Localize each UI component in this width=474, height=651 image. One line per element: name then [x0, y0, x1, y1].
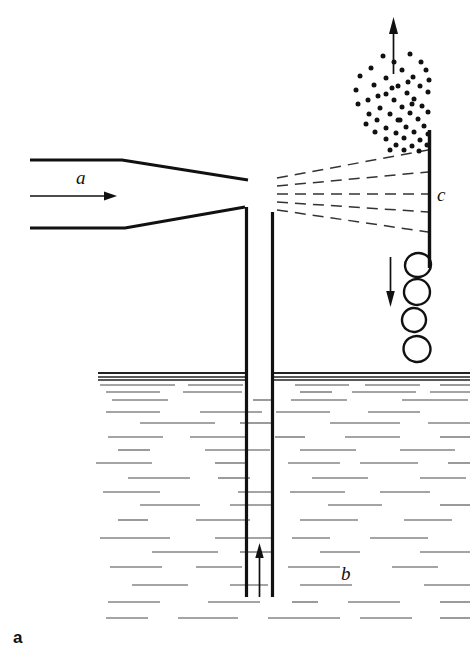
spray-droplet [378, 106, 383, 111]
spray-droplet [394, 131, 399, 136]
spray-droplet [384, 92, 389, 97]
spray-droplet [372, 83, 377, 88]
spray-droplet [364, 122, 369, 127]
spray-droplet [373, 130, 378, 135]
spray-droplet [396, 84, 401, 89]
spray-droplet [405, 91, 410, 96]
spray-droplet [390, 86, 395, 91]
spray-droplet [367, 112, 372, 117]
spray-droplet [384, 137, 389, 142]
spray-droplet [422, 124, 427, 129]
spray-droplet [354, 88, 359, 93]
figure-panel-caption: a [13, 628, 23, 647]
spray-droplet [426, 90, 431, 95]
spray-droplet [381, 54, 386, 59]
spray-droplet [375, 118, 380, 123]
label-wall-c: c [437, 184, 446, 205]
spray-droplet [400, 68, 405, 73]
spray-droplet [406, 80, 411, 85]
spray-droplet [410, 144, 415, 149]
figure-root: a c b a [0, 0, 474, 651]
spray-droplet [416, 117, 421, 122]
spray-droplet [376, 94, 381, 99]
spray-droplet [418, 84, 423, 89]
spray-droplet [366, 98, 371, 103]
spray-droplet [388, 112, 393, 117]
spray-droplet [402, 136, 407, 141]
spray-droplet [400, 105, 405, 110]
spray-droplet [420, 104, 425, 109]
spray-droplet [358, 74, 363, 79]
spray-droplet [402, 148, 407, 153]
spray-droplet [392, 98, 397, 103]
spray-droplet [418, 138, 423, 143]
spray-droplet [417, 149, 422, 154]
spray-droplet [404, 125, 409, 130]
spray-droplet [384, 76, 389, 81]
spray-droplet [356, 102, 361, 107]
spray-droplet [408, 52, 413, 57]
spray-droplet [410, 102, 415, 107]
spray-droplet [394, 143, 399, 148]
spray-droplet [424, 68, 429, 73]
spray-droplet [419, 60, 424, 65]
spray-droplet [412, 130, 417, 135]
apparatus-schematic: a c b a [0, 0, 474, 651]
spray-droplet [412, 97, 417, 102]
spray-droplet [398, 118, 403, 123]
spray-droplet [426, 110, 431, 115]
label-inlet-a: a [76, 167, 86, 188]
spray-droplet [388, 148, 393, 153]
label-liquid-b: b [341, 563, 351, 584]
spray-droplet [384, 126, 389, 131]
spray-droplet [369, 66, 374, 71]
spray-droplet [408, 111, 413, 116]
spray-droplet [411, 75, 416, 80]
spray-droplet [427, 78, 432, 83]
